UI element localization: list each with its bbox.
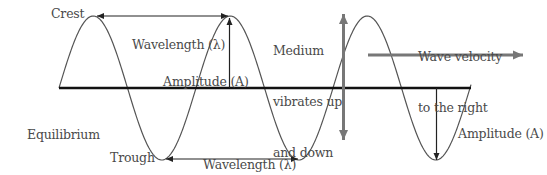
amplitude-left-text: Amplitude (A)	[163, 74, 249, 89]
equilibrium-line-1: Equilibrium	[27, 126, 100, 143]
amplitude-left-label: Amplitude (A)	[148, 56, 249, 107]
wave-diagram: Crest Wavelength (λ) Amplitude (A) Mediu…	[0, 0, 547, 175]
trough-label: Trough	[110, 149, 155, 166]
crest-label: Crest	[51, 5, 84, 22]
amplitude-right-label: Amplitude (A)	[443, 108, 544, 159]
wavelength-top-text: Wavelength (λ)	[132, 37, 225, 52]
velocity-line-1: Wave velocity	[418, 48, 502, 65]
equilibrium-label: Equilibrium position	[27, 92, 100, 175]
medium-line-1: Medium	[273, 42, 342, 59]
amplitude-right-text: Amplitude (A)	[458, 126, 544, 141]
medium-line-2: vibrates up	[273, 93, 342, 110]
wavelength-bottom-text: Wavelength (λ)	[203, 157, 296, 172]
wavelength-bottom-label: Wavelength (λ)	[188, 139, 296, 175]
